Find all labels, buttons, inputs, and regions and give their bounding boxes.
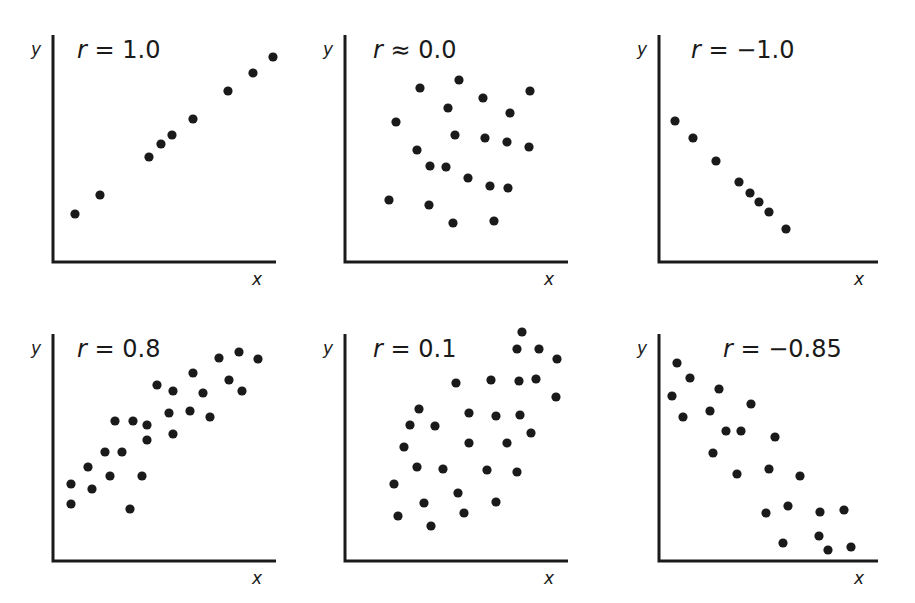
scatter-panel: yxr = 0.1: [322, 327, 568, 588]
data-point: [463, 173, 472, 182]
correlation-label: r = 0.1: [373, 335, 456, 363]
data-point: [144, 152, 153, 161]
data-point: [795, 471, 804, 480]
data-point: [667, 391, 676, 400]
data-point: [491, 411, 500, 420]
data-point: [453, 488, 462, 497]
data-point: [152, 380, 161, 389]
axes: [345, 334, 568, 561]
y-axis-label: y: [322, 338, 334, 358]
data-point: [770, 432, 779, 441]
data-point: [66, 499, 75, 508]
data-point: [125, 504, 134, 513]
data-point: [761, 508, 770, 517]
data-point: [732, 469, 741, 478]
axes: [53, 35, 276, 262]
y-axis-label: y: [30, 39, 42, 59]
correlation-label: r = −0.85: [723, 335, 842, 363]
data-point: [188, 114, 197, 123]
data-point: [551, 392, 560, 401]
data-point: [846, 542, 855, 551]
data-point: [534, 344, 543, 353]
data-point: [234, 347, 243, 356]
data-point: [485, 181, 494, 190]
data-point: [405, 420, 414, 429]
axes: [659, 35, 878, 262]
x-axis-label: x: [543, 568, 555, 588]
data-point: [764, 464, 773, 473]
y-axis-label: y: [636, 338, 648, 358]
correlation-label: r = 0.8: [77, 335, 160, 363]
data-point: [393, 511, 402, 520]
data-point: [685, 373, 694, 382]
data-point: [482, 465, 491, 474]
data-point: [480, 133, 489, 142]
axes: [345, 35, 568, 262]
data-point: [670, 116, 679, 125]
scatter-panel: yxr = 0.8: [30, 334, 276, 588]
data-point: [164, 408, 173, 417]
data-point: [814, 531, 823, 540]
data-point: [525, 86, 534, 95]
data-point: [168, 386, 177, 395]
x-axis-label: x: [853, 568, 865, 588]
data-point: [384, 195, 393, 204]
data-point: [711, 156, 720, 165]
data-point: [515, 410, 524, 419]
data-point: [489, 216, 498, 225]
data-point: [419, 498, 428, 507]
data-point: [734, 177, 743, 186]
data-point: [438, 464, 447, 473]
data-point: [678, 412, 687, 421]
data-point: [167, 130, 176, 139]
data-point: [517, 327, 526, 336]
data-point: [552, 354, 561, 363]
data-point: [205, 412, 214, 421]
data-point: [248, 68, 257, 77]
data-point: [441, 162, 450, 171]
data-point: [491, 497, 500, 506]
data-point: [156, 139, 165, 148]
data-point: [389, 479, 398, 488]
correlation-label: r = −1.0: [691, 36, 795, 64]
data-point: [391, 117, 400, 126]
data-point: [502, 438, 511, 447]
data-point: [764, 207, 773, 216]
data-point: [450, 130, 459, 139]
data-point: [83, 462, 92, 471]
data-point: [412, 145, 421, 154]
data-point: [459, 508, 468, 517]
data-point: [502, 137, 511, 146]
data-point: [117, 447, 126, 456]
data-point: [721, 426, 730, 435]
data-point: [714, 384, 723, 393]
data-point: [464, 408, 473, 417]
data-point: [443, 103, 452, 112]
data-point: [399, 442, 408, 451]
data-point: [512, 467, 521, 476]
data-point: [451, 378, 460, 387]
scatter-panel: yxr = 1.0: [30, 35, 278, 289]
data-point: [66, 479, 75, 488]
data-point: [425, 161, 434, 170]
data-point: [430, 421, 439, 430]
scatter-panel: yxr ≈ 0.0: [322, 35, 568, 289]
data-point: [224, 375, 233, 384]
data-point: [137, 471, 146, 480]
data-point: [448, 218, 457, 227]
data-point: [168, 429, 177, 438]
data-point: [478, 93, 487, 102]
data-point: [464, 438, 473, 447]
data-point: [214, 353, 223, 362]
data-point: [415, 83, 424, 92]
data-point: [268, 52, 277, 61]
correlation-label: r = 1.0: [77, 36, 160, 64]
data-point: [253, 354, 262, 363]
data-point: [672, 358, 681, 367]
data-point: [70, 209, 79, 218]
data-point: [839, 505, 848, 514]
data-point: [237, 386, 246, 395]
y-axis-label: y: [30, 338, 42, 358]
data-point: [110, 416, 119, 425]
data-point: [87, 484, 96, 493]
